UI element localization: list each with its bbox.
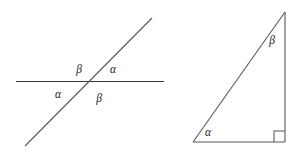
label-alpha-lower-left: α xyxy=(55,88,62,100)
right-triangle-panel: β α xyxy=(193,12,285,142)
right-angle-marker-icon xyxy=(274,131,285,142)
triangle-hypotenuse xyxy=(193,12,285,142)
geometry-figure-canvas: β α α β β α xyxy=(0,0,294,153)
label-alpha-upper-right: α xyxy=(110,63,117,75)
label-beta-apex: β xyxy=(268,34,275,47)
label-alpha-base: α xyxy=(205,126,212,138)
figure-svg: β α α β β α xyxy=(0,0,294,153)
label-beta-upper-left: β xyxy=(75,63,82,76)
intersecting-lines-panel: β α α β xyxy=(16,18,164,146)
label-beta-lower-right: β xyxy=(95,92,102,105)
